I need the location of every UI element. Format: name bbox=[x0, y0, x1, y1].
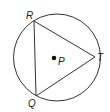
center-point-p bbox=[52, 56, 57, 61]
label-p: P bbox=[58, 56, 65, 67]
label-t: T bbox=[97, 52, 104, 63]
label-r: R bbox=[26, 10, 33, 21]
label-q: Q bbox=[28, 98, 36, 109]
circle bbox=[14, 14, 101, 101]
geometry-diagram: R T Q P bbox=[0, 0, 110, 112]
